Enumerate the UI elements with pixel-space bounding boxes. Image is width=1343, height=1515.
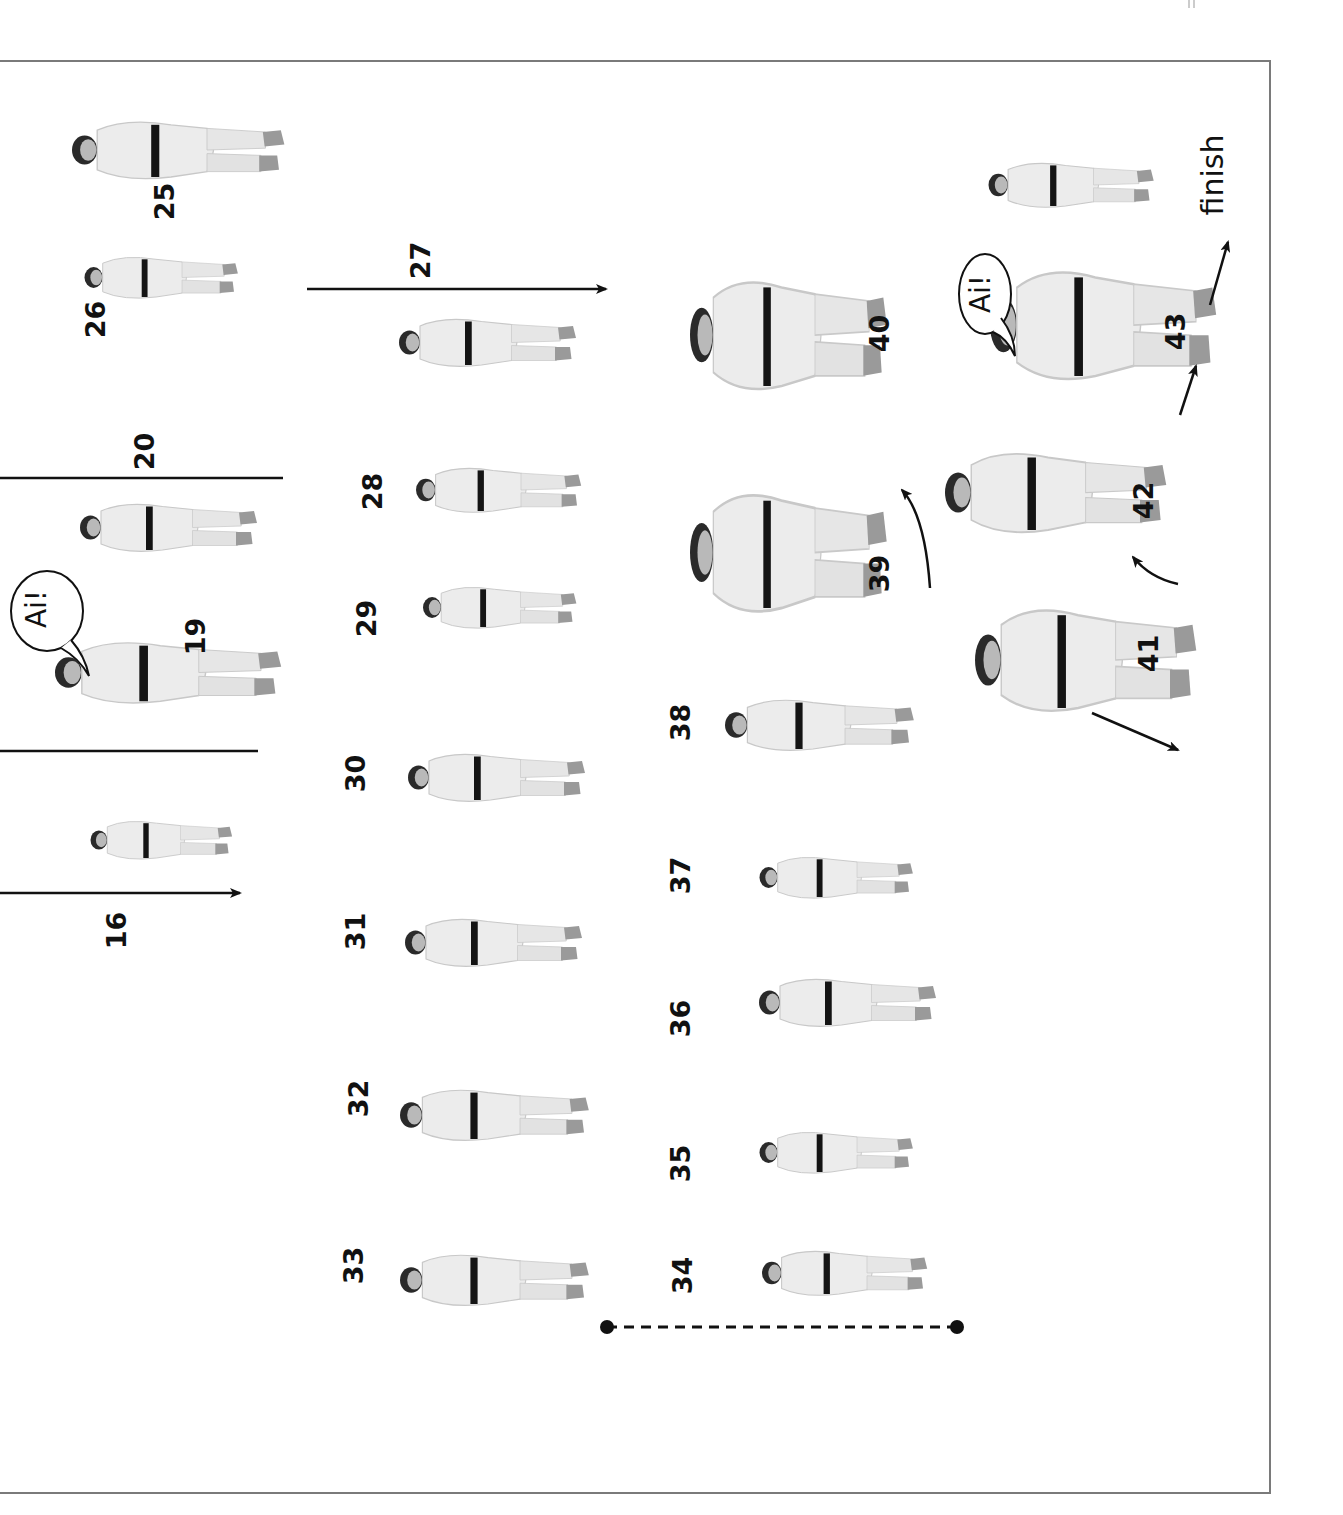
step-number-31: 31 xyxy=(342,913,369,951)
figure-step-41 xyxy=(975,580,1200,740)
step-number-37: 37 xyxy=(667,857,694,895)
kiai-text-43: Ai! xyxy=(967,275,995,313)
figure-step-36 xyxy=(730,965,968,1040)
figure-step-33 xyxy=(385,1240,607,1320)
step-number-25: 25 xyxy=(151,183,178,221)
figure-step-27 xyxy=(378,305,600,380)
figure-step-25 xyxy=(60,105,300,195)
figure-step-35 xyxy=(710,1120,965,1185)
step-number-16: 16 xyxy=(103,912,130,950)
finish-label: finish xyxy=(1198,135,1228,216)
step-number-29: 29 xyxy=(353,600,380,638)
figure-step-32 xyxy=(385,1075,607,1155)
step-number-40: 40 xyxy=(866,315,893,353)
page-number-mark xyxy=(1185,0,1199,10)
step-number-39: 39 xyxy=(866,555,893,593)
figure-step-26 xyxy=(30,245,295,310)
step-number-35: 35 xyxy=(667,1145,694,1183)
figure-step-finish xyxy=(945,150,1200,220)
figure-step-40 xyxy=(690,250,890,420)
figure-step-16 xyxy=(45,810,280,870)
step-number-28: 28 xyxy=(359,473,386,511)
figure-step-29 xyxy=(392,575,610,640)
step-number-43: 43 xyxy=(1162,313,1189,351)
figure-step-37 xyxy=(710,845,965,910)
step-number-20: 20 xyxy=(131,433,158,471)
figure-step-28 xyxy=(390,455,610,525)
step-number-41: 41 xyxy=(1135,635,1162,673)
step-number-27: 27 xyxy=(407,242,434,280)
step-number-26: 26 xyxy=(82,301,109,339)
figure-step-20 xyxy=(50,490,290,565)
figure-step-38 xyxy=(705,685,937,765)
figure-step-34 xyxy=(730,1238,962,1308)
figure-step-30 xyxy=(388,740,608,815)
step-number-34: 34 xyxy=(669,1257,696,1295)
kiai-text-19: Ai! xyxy=(23,590,51,628)
figure-step-31 xyxy=(385,905,605,980)
figure-step-39 xyxy=(690,460,890,645)
step-number-19: 19 xyxy=(182,618,209,656)
step-number-33: 33 xyxy=(340,1247,367,1285)
step-number-36: 36 xyxy=(667,1000,694,1038)
step-number-30: 30 xyxy=(342,755,369,793)
step-number-38: 38 xyxy=(667,704,694,742)
step-number-42: 42 xyxy=(1130,482,1157,520)
step-number-32: 32 xyxy=(345,1080,372,1118)
